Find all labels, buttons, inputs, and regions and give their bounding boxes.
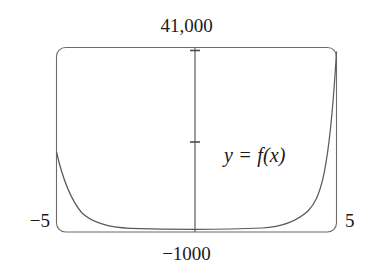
function-annotation-label: y = f(x)	[224, 145, 286, 165]
y-axis-min-label: −1000	[0, 244, 374, 263]
x-axis-min-label: −5	[10, 211, 50, 230]
plot-canvas	[0, 0, 375, 278]
viewing-window-frame	[57, 48, 337, 233]
graph-figure: 41,000 −1000 −5 5 y = f(x)	[0, 0, 375, 278]
y-axis-max-label: 41,000	[0, 16, 374, 35]
function-curve	[57, 52, 337, 229]
x-axis-max-label: 5	[345, 211, 371, 230]
